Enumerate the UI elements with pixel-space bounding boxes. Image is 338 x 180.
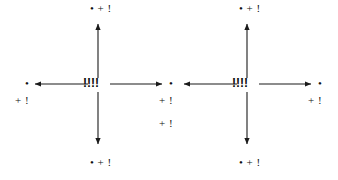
left-cross-right-sublabel-1: + !: [159, 95, 173, 106]
right-cross-right-endpoint-dot: •: [318, 78, 322, 89]
left-cross-right-endpoint-dot: •: [169, 78, 173, 89]
left-cross-top-label: • + !: [90, 3, 112, 14]
left-cross-left-endpoint-dot: •: [25, 78, 29, 89]
arrow-vector-layer: [0, 0, 338, 180]
left-cross-center-label: !!!!: [83, 78, 99, 89]
left-cross-bottom-label: • + !: [90, 157, 112, 168]
diagram-canvas: !!!! • + ! • + ! • + ! • + ! + ! !!!! • …: [0, 0, 338, 180]
right-cross-center-label: !!!!: [232, 78, 248, 89]
right-cross-bottom-label: • + !: [239, 157, 261, 168]
left-cross-right-sublabel-2: + !: [159, 118, 173, 129]
left-cross-left-sublabel: + !: [15, 95, 29, 106]
right-cross-top-label: • + !: [239, 3, 261, 14]
right-cross-right-sublabel: + !: [308, 95, 322, 106]
